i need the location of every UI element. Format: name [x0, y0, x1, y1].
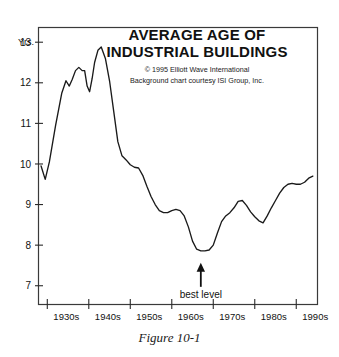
y-tick-label: 7 — [25, 280, 31, 291]
figure-10-1: AVERAGE AGE OF INDUSTRIAL BUILDINGS © 19… — [0, 0, 339, 357]
x-tick-label: 1960s — [178, 311, 204, 322]
y-tick-label: 10 — [20, 159, 32, 170]
chart-credit-line1: © 1995 Elliott Wave International — [145, 65, 250, 74]
average-age-industrial-buildings-chart: AVERAGE AGE OF INDUSTRIAL BUILDINGS © 19… — [0, 0, 339, 330]
x-tick-label: 1990s — [302, 311, 328, 322]
chart-credit-line2: Background chart courtesy ISI Group, Inc… — [130, 76, 264, 85]
x-tick-label: 1980s — [261, 311, 287, 322]
annotation-label: best level — [180, 289, 222, 300]
chart-title-line2: INDUSTRIAL BUILDINGS — [106, 43, 287, 60]
y-tick-label: 13 — [20, 37, 32, 48]
x-tick-label: 1930s — [53, 311, 79, 322]
x-tick-label: 1950s — [136, 311, 162, 322]
chart-title-line1: AVERAGE AGE OF — [129, 26, 266, 43]
x-tick-label: 1940s — [95, 311, 121, 322]
y-tick-label: 12 — [20, 77, 32, 88]
y-tick-label: 8 — [25, 240, 31, 251]
figure-caption: Figure 10-1 — [0, 330, 339, 346]
y-tick-label: 11 — [21, 118, 32, 129]
x-tick-label: 1970s — [219, 311, 245, 322]
y-tick-label: 9 — [25, 199, 31, 210]
